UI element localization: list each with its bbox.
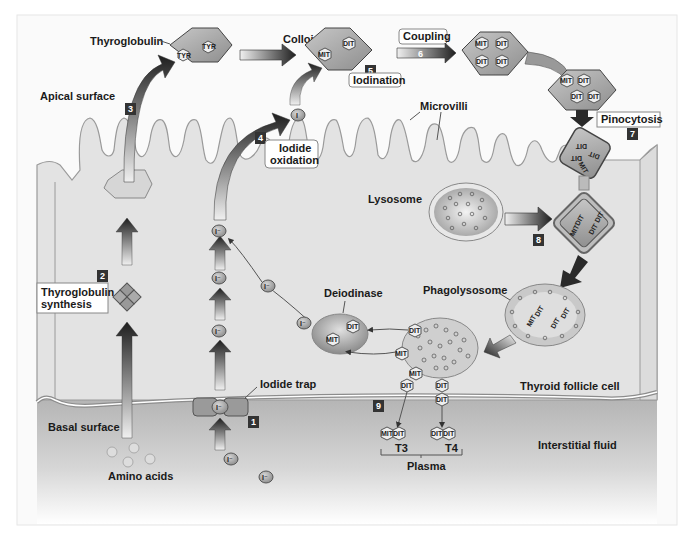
svg-text:TYR: TYR [177, 52, 191, 59]
label-t3: T3 [395, 442, 408, 454]
label-iodide-trap: Iodide trap [260, 378, 317, 390]
adjacent-cell-right [640, 145, 657, 400]
iodide-ion-extracellular-1: I⁻ [224, 453, 238, 465]
iodide-ion-recycled-1: I⁻ [261, 280, 275, 292]
svg-text:1: 1 [251, 417, 256, 427]
svg-text:DIT: DIT [401, 382, 413, 389]
svg-text:8: 8 [536, 235, 541, 245]
iodide-ion-extracellular-2: I⁻ [259, 471, 273, 483]
label-basal-surface: Basal surface [48, 421, 120, 433]
svg-text:I: I [296, 112, 298, 119]
label-lysosome: Lysosome [368, 193, 422, 205]
svg-text:DIT: DIT [476, 58, 488, 65]
svg-text:DIT: DIT [570, 155, 582, 162]
svg-text:MIT: MIT [395, 350, 408, 357]
svg-text:MIT: MIT [560, 77, 573, 84]
label-deiodinase: Deiodinase [324, 287, 383, 299]
svg-text:I⁻: I⁻ [264, 283, 270, 290]
svg-text:MIT: MIT [318, 51, 331, 58]
phagolysosome: MIT DIT DIT DIT [505, 284, 585, 346]
svg-text:DIT: DIT [578, 77, 590, 84]
svg-text:I⁻: I⁻ [216, 404, 222, 411]
svg-text:2: 2 [100, 271, 105, 281]
svg-text:Iodide: Iodide [279, 142, 311, 154]
svg-text:MIT: MIT [475, 40, 488, 47]
svg-text:DIT: DIT [496, 40, 508, 47]
svg-text:DIT: DIT [409, 327, 421, 334]
iodide-ion-cytoplasm-1: I⁻ [212, 325, 226, 337]
label-coupling: Coupling [403, 30, 451, 42]
label-t4: T4 [445, 442, 459, 454]
label-apical-surface: Apical surface [40, 90, 115, 102]
label-amino-acids: Amino acids [108, 470, 173, 482]
label-microvilli: Microvilli [420, 100, 468, 112]
label-phagolysosome: Phagolysosome [423, 284, 507, 296]
svg-text:I⁻: I⁻ [262, 474, 268, 481]
vesicle-stalk [579, 176, 589, 190]
iodine-atom: I [291, 109, 305, 121]
thyroid-hormone-synthesis-diagram: Thyroglobulin Colloid Apical surface Mic… [0, 0, 698, 541]
svg-text:MIT: MIT [381, 430, 394, 437]
svg-text:DIT: DIT [575, 143, 587, 150]
svg-text:7: 7 [630, 129, 635, 139]
svg-text:MIT: MIT [409, 370, 422, 377]
svg-text:TYR: TYR [202, 43, 216, 50]
svg-text:DIT: DIT [588, 93, 600, 100]
svg-text:DIT: DIT [571, 93, 583, 100]
svg-text:DIT: DIT [393, 430, 405, 437]
svg-text:DIT: DIT [431, 430, 443, 437]
label-interstitial-fluid: Interstitial fluid [538, 439, 617, 451]
label-plasma: Plasma [407, 460, 446, 472]
svg-text:I⁻: I⁻ [300, 320, 306, 327]
svg-text:3: 3 [128, 104, 133, 114]
svg-text:9: 9 [376, 401, 381, 411]
svg-text:DIT: DIT [436, 396, 448, 403]
svg-text:DIT: DIT [343, 40, 355, 47]
iodide-ion-recycled-2: I⁻ [297, 317, 311, 329]
svg-text:oxidation: oxidation [270, 154, 319, 166]
svg-text:I⁻: I⁻ [227, 456, 233, 463]
lysosome [429, 183, 503, 241]
svg-text:DIT: DIT [496, 58, 508, 65]
svg-text:synthesis: synthesis [41, 298, 92, 310]
svg-text:Thyroglobulin: Thyroglobulin [41, 286, 115, 298]
svg-text:I⁻: I⁻ [215, 275, 221, 282]
svg-text:I⁻: I⁻ [215, 328, 221, 335]
deiodinase-enzyme: DIT MIT [312, 314, 368, 354]
svg-text:I⁻: I⁻ [215, 228, 221, 235]
label-thyroglobulin: Thyroglobulin [90, 35, 164, 47]
iodide-ion-cytoplasm-2: I⁻ [212, 272, 226, 284]
label-pinocytosis: Pinocytosis [601, 113, 663, 125]
svg-text:DIT: DIT [347, 323, 359, 330]
svg-text:MIT: MIT [326, 336, 339, 343]
label-iodination: Iodination [353, 74, 406, 86]
step-6-badge: 6 [418, 49, 423, 59]
svg-text:DIT: DIT [436, 382, 448, 389]
svg-text:4: 4 [258, 133, 263, 143]
label-thyroid-follicle-cell: Thyroid follicle cell [520, 380, 620, 392]
iodide-trap-transporter: I⁻ [193, 398, 248, 416]
iodide-ion-cytoplasm-3: I⁻ [212, 225, 226, 237]
svg-text:DIT: DIT [443, 430, 455, 437]
